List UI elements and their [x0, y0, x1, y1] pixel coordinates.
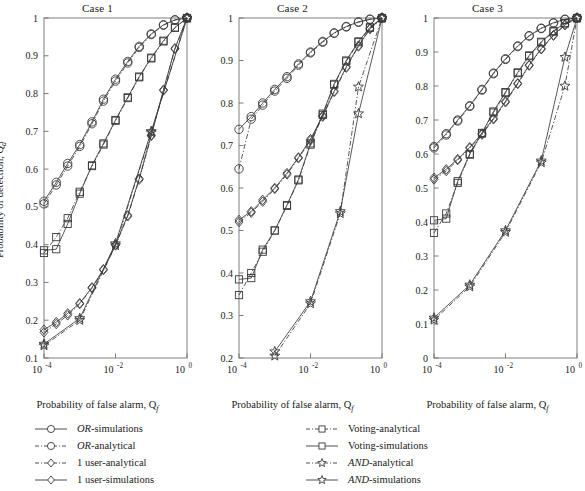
x-tick-label: 10-4: [227, 362, 247, 375]
legend-item[interactable]: AND-simulations: [305, 471, 428, 488]
x-axis-label-case-1: Probability of false alarm, Qf: [0, 399, 195, 413]
series-line-1-user-analytical: [44, 18, 187, 332]
series-line-or-simulations: [239, 18, 382, 129]
x-axis-label-text: Probability of false alarm, Q: [426, 399, 546, 410]
y-tick-label: 0: [423, 353, 428, 364]
series-markers-1-user-simulations: [235, 13, 386, 224]
figure-roc-panels: Probability of detection, Qd Case 1 0.10…: [0, 0, 585, 491]
panel-title-case-1: Case 1: [0, 2, 195, 14]
plot-area-case-3: 00.10.20.30.40.50.60.70.80.9110-410-2100: [390, 0, 585, 400]
svg-text:0: 0: [579, 362, 583, 370]
legend-item[interactable]: Voting-simulations: [305, 437, 428, 454]
legend-item-label: OR-analytical: [77, 440, 135, 451]
legend-item-label: OR-simulations: [77, 423, 143, 434]
svg-text:10: 10: [299, 364, 309, 375]
legend-item[interactable]: AND-analytical: [305, 454, 428, 471]
series-markers-and-simulations: [39, 13, 192, 348]
series-markers-and-analytical: [270, 13, 387, 360]
legend-label-emphasis: OR: [77, 423, 91, 434]
legend-item[interactable]: Voting-analytical: [305, 420, 428, 437]
y-tick-label: 0.5: [416, 183, 429, 194]
legend-label-emphasis: AND: [348, 457, 369, 468]
series-markers-voting-analytical: [40, 14, 190, 256]
x-axis-label-text: Probability of false alarm, Q: [36, 399, 156, 410]
legend-sample: [34, 473, 68, 487]
y-tick-label: 0.4: [26, 239, 39, 250]
y-tick-label: 0.6: [221, 183, 234, 194]
svg-text:10: 10: [32, 364, 42, 375]
series-markers-1-user-analytical: [430, 13, 581, 184]
legend-item-label: Voting-analytical: [348, 423, 420, 434]
series-markers-and-simulations: [270, 13, 387, 356]
y-tick-label: 0.3: [416, 251, 429, 262]
svg-text:-2: -2: [117, 362, 123, 370]
legend-label-rest: -simulations: [91, 423, 143, 434]
svg-text:10: 10: [494, 364, 504, 375]
y-tick-label: 0.2: [26, 315, 39, 326]
series-markers-or-simulations: [235, 14, 386, 134]
panel-title-case-2: Case 2: [195, 2, 390, 14]
y-tick-label: 0.6: [26, 164, 39, 175]
y-tick-label: 0.2: [416, 285, 429, 296]
series-markers-or-simulations: [430, 14, 581, 151]
legend-item[interactable]: 1 user-analytical: [34, 454, 154, 471]
legend-item[interactable]: OR-analytical: [34, 437, 154, 454]
plot-area-case-2: 0.20.30.40.50.60.70.80.9110-410-2100: [195, 0, 390, 400]
series-line-and-analytical: [275, 18, 382, 356]
svg-text:-4: -4: [241, 362, 247, 370]
y-tick-label: 0.6: [416, 149, 429, 160]
y-tick-label: 1: [423, 13, 428, 24]
series-markers-and-analytical: [39, 13, 192, 350]
svg-text:-4: -4: [436, 362, 442, 370]
x-axis-label-subscript: f: [546, 404, 548, 413]
legend-marker-star-icon: [305, 456, 339, 470]
legend-label-emphasis: OR: [77, 440, 91, 451]
y-tick-label: 1: [228, 13, 233, 24]
series-line-or-simulations: [44, 18, 187, 201]
series-line-1-user-simulations: [44, 18, 187, 330]
series-line-and-simulations: [275, 18, 382, 352]
legend-marker-square-icon: [305, 439, 339, 453]
x-tick-label: 100: [565, 362, 583, 375]
legend-item-label: AND-analytical: [348, 457, 413, 468]
y-tick-label: 0.9: [416, 47, 429, 58]
legend-sample: [34, 456, 68, 470]
x-tick-label: 10-2: [104, 362, 124, 375]
y-tick-label: 0.2: [221, 353, 234, 364]
legend-item-label: 1 user-simulations: [77, 474, 154, 485]
legend-item-label: 1 user-analytical: [77, 457, 146, 468]
legend-item[interactable]: 1 user-simulations: [34, 471, 154, 488]
legend-label-rest: -analytical: [91, 440, 135, 451]
y-tick-label: 0.5: [221, 225, 234, 236]
legend-sample: [34, 422, 68, 436]
panel-case-2: Case 2 0.20.30.40.50.60.70.80.9110-410-2…: [195, 0, 390, 415]
legend-marker-diamond-icon: [34, 456, 68, 470]
y-tick-label: 0.1: [416, 319, 429, 330]
legend-sample: [305, 456, 339, 470]
panel-title-case-3: Case 3: [390, 2, 585, 14]
svg-text:10: 10: [370, 364, 380, 375]
legend-label-emphasis: AND: [348, 474, 369, 485]
panel-case-3: Case 3 00.10.20.30.40.50.60.70.80.9110-4…: [390, 0, 585, 415]
x-tick-label: 100: [175, 362, 193, 375]
panel-case-1: Case 1 0.10.20.30.40.50.60.70.80.9110-41…: [0, 0, 195, 415]
series-markers-voting-simulations: [40, 14, 190, 254]
y-tick-label: 0.1: [26, 353, 39, 364]
legend-column-left: OR-simulationsOR-analytical1 user-analyt…: [34, 420, 154, 488]
x-axis-label-subscript: f: [351, 404, 353, 413]
y-tick-label: 0.3: [26, 277, 39, 288]
legend-sample: [305, 439, 339, 453]
series-line-voting-simulations: [44, 18, 187, 250]
x-tick-label: 100: [370, 362, 388, 375]
svg-text:-2: -2: [312, 362, 318, 370]
svg-text:10: 10: [104, 364, 114, 375]
series-line-voting-analytical: [44, 18, 187, 253]
legend-label-rest: -simulations: [369, 474, 421, 485]
svg-text:0: 0: [384, 362, 388, 370]
series-line-and-analytical: [44, 18, 187, 346]
y-tick-label: 0.7: [26, 126, 39, 137]
series-line-voting-analytical: [434, 18, 577, 233]
legend-sample: [305, 473, 339, 487]
legend-item[interactable]: OR-simulations: [34, 420, 154, 437]
y-tick-label: 0.8: [416, 81, 429, 92]
